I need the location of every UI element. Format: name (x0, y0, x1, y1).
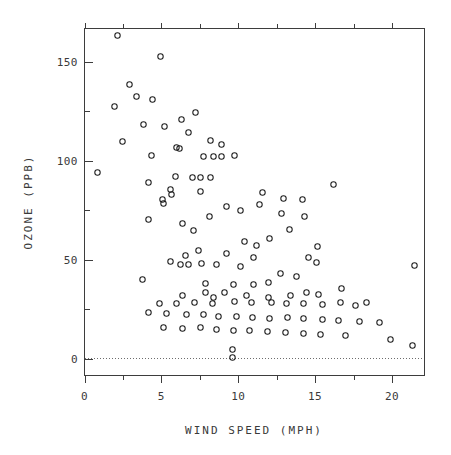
data-point (224, 204, 229, 209)
data-point (320, 317, 325, 322)
data-point (301, 301, 306, 306)
data-point (216, 314, 221, 319)
data-point (198, 175, 203, 180)
data-point (162, 124, 167, 129)
data-point (338, 300, 343, 305)
y-tick-label: 0 (71, 353, 78, 366)
plot-frame (85, 29, 425, 376)
data-point (199, 261, 204, 266)
data-point (146, 180, 151, 185)
data-point (157, 301, 162, 306)
data-point (169, 192, 174, 197)
data-point (266, 295, 271, 300)
data-point (412, 263, 417, 268)
data-point (201, 312, 206, 317)
data-point (265, 329, 270, 334)
y-tick-labels: 050100150 (57, 56, 78, 366)
data-point (219, 154, 224, 159)
data-point (198, 189, 203, 194)
data-point-layer (95, 33, 417, 360)
data-point (183, 253, 188, 258)
data-point (314, 260, 319, 265)
data-point (242, 239, 247, 244)
data-point (95, 170, 100, 175)
data-point (281, 196, 286, 201)
data-point (267, 236, 272, 241)
data-point (224, 251, 229, 256)
data-point (278, 271, 283, 276)
data-point (180, 326, 185, 331)
data-point (164, 311, 169, 316)
data-point (112, 104, 117, 109)
y-axis-title: OZONE (PPB) (22, 155, 35, 250)
data-point (203, 281, 208, 286)
data-point (251, 282, 256, 287)
data-point (247, 328, 252, 333)
data-point (127, 82, 132, 87)
data-point (168, 187, 173, 192)
plot-canvas: 050100150 05101520 OZONE (PPB) WIND SPEE… (0, 0, 451, 455)
data-point (320, 302, 325, 307)
data-point (331, 182, 336, 187)
data-point (150, 97, 155, 102)
data-point (196, 248, 201, 253)
data-point (198, 325, 203, 330)
x-tick-labels: 05101520 (81, 390, 399, 403)
data-point (193, 110, 198, 115)
x-axis-ticks (86, 23, 393, 383)
data-point (174, 301, 179, 306)
data-point (285, 315, 290, 320)
data-point (232, 299, 237, 304)
data-point (180, 221, 185, 226)
data-point (208, 175, 213, 180)
y-axis-ticks (85, 63, 93, 360)
data-point (257, 202, 262, 207)
data-point (232, 153, 237, 158)
data-point (168, 259, 173, 264)
data-point (178, 262, 183, 267)
x-tick-label: 20 (385, 390, 399, 403)
data-point (301, 316, 306, 321)
data-point (158, 54, 163, 59)
data-point (140, 277, 145, 282)
data-point (377, 320, 382, 325)
data-point (120, 139, 125, 144)
data-point (238, 264, 243, 269)
data-point (149, 153, 154, 158)
data-point (301, 331, 306, 336)
data-point (184, 312, 189, 317)
data-point (190, 175, 195, 180)
data-point (250, 315, 255, 320)
data-point (219, 142, 224, 147)
data-point (300, 197, 305, 202)
data-point (254, 243, 259, 248)
data-point (231, 328, 236, 333)
scatter-plot-figure: 050100150 05101520 OZONE (PPB) WIND SPEE… (0, 0, 451, 455)
data-point (211, 154, 216, 159)
y-tick-label: 100 (57, 155, 78, 168)
data-point (203, 290, 208, 295)
data-point (244, 293, 249, 298)
data-point (173, 174, 178, 179)
x-axis-title: WIND SPEED (MPH) (185, 424, 323, 437)
data-point (146, 217, 151, 222)
data-point (339, 286, 344, 291)
data-point (266, 280, 271, 285)
data-point (288, 293, 293, 298)
data-point (186, 262, 191, 267)
data-point (115, 33, 120, 38)
data-point (180, 293, 185, 298)
data-point (230, 355, 235, 360)
data-point (211, 295, 216, 300)
data-point (267, 316, 272, 321)
y-tick-label: 150 (57, 56, 78, 69)
data-point (207, 214, 212, 219)
data-point (179, 117, 184, 122)
data-point (210, 301, 215, 306)
data-point (315, 244, 320, 249)
data-point (201, 154, 206, 159)
data-point (364, 300, 369, 305)
data-point (279, 211, 284, 216)
data-point (287, 227, 292, 232)
data-point (141, 122, 146, 127)
